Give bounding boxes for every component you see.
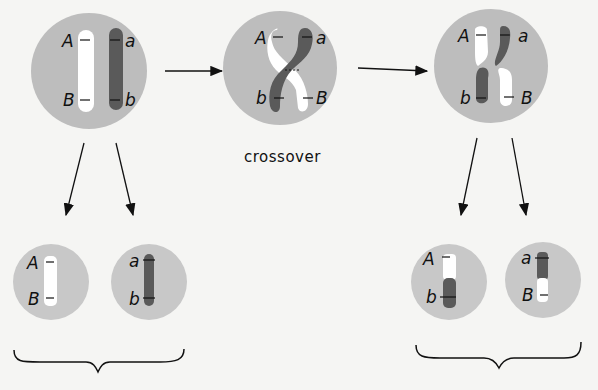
light-chromosome-segment: [498, 68, 512, 106]
allele-label: a: [129, 251, 139, 271]
allele-label: A: [61, 31, 74, 51]
crossover-caption: crossover: [244, 148, 321, 166]
allele-label: b: [460, 88, 471, 108]
arrow-down-icon: [116, 143, 133, 215]
brace-icon: [14, 349, 184, 372]
allele-label: A: [254, 28, 267, 48]
allele-label: b: [125, 90, 136, 110]
allele-label: B: [63, 90, 75, 110]
allele-label: A: [422, 249, 435, 269]
allele-label: B: [521, 88, 533, 108]
allele-label: a: [316, 28, 326, 48]
allele-label: b: [256, 88, 267, 108]
allele-label: a: [518, 26, 528, 46]
parent-cell: A B a b: [31, 13, 147, 129]
brace-icon: [416, 342, 581, 368]
arrow-down-icon: [66, 143, 84, 215]
crossover-cell: A b a B: [223, 11, 337, 125]
allele-label: b: [426, 287, 437, 307]
gamete-AB: A B: [13, 244, 89, 320]
allele-label: B: [316, 88, 328, 108]
arrow-right-icon: [358, 68, 427, 71]
gamete-ab: a b: [111, 244, 187, 320]
arrow-down-icon: [461, 138, 477, 215]
allele-label: b: [129, 289, 140, 309]
allele-label: a: [521, 248, 531, 268]
crossover-diagram: A B a b A b a B crossover A b a B: [0, 0, 598, 390]
recombined-cell: A b a B: [434, 9, 548, 123]
gamete-aB: a B: [505, 242, 581, 318]
allele-label: B: [28, 289, 40, 309]
allele-label: A: [26, 253, 39, 273]
allele-label: a: [125, 31, 135, 51]
arrow-down-icon: [512, 138, 526, 215]
gamete-Ab: A b: [411, 244, 487, 320]
allele-label: A: [457, 26, 470, 46]
allele-label: B: [522, 285, 534, 305]
